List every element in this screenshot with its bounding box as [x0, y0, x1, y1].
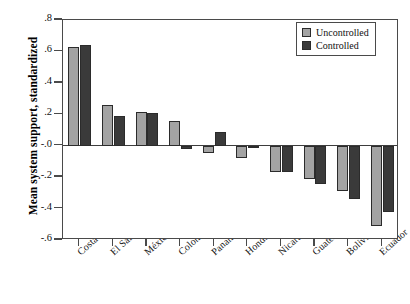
- bar: [102, 105, 113, 146]
- y-axis-tick-label: -.4: [24, 202, 52, 213]
- bar: [169, 121, 180, 146]
- bar: [80, 45, 91, 146]
- bar: [181, 146, 192, 149]
- legend-label: Controlled: [316, 41, 359, 51]
- bar: [337, 146, 348, 192]
- chart-figure: Mean system support, standardized .8.6.4…: [0, 0, 410, 304]
- bar: [349, 146, 360, 199]
- bar: [136, 112, 147, 146]
- y-axis-tick-label: .6: [24, 44, 52, 55]
- y-axis-tick-label: .8: [24, 13, 52, 24]
- bar: [236, 146, 247, 159]
- y-axis-tick: [54, 113, 62, 114]
- bar: [215, 132, 226, 146]
- y-axis-tick: [54, 144, 62, 145]
- bar: [147, 113, 158, 146]
- bar: [114, 116, 125, 146]
- y-axis-tick-label: -.6: [24, 233, 52, 244]
- y-axis-tick: [54, 50, 62, 51]
- y-axis-tick-label: -.2: [24, 170, 52, 181]
- legend-swatch-icon: [302, 28, 311, 37]
- y-axis-tick-label: -.0: [24, 139, 52, 150]
- y-axis-tick-label: .2: [24, 107, 52, 118]
- y-axis-tick: [54, 207, 62, 208]
- y-axis-tick: [54, 18, 62, 19]
- chart-legend: UncontrolledControlled: [296, 22, 376, 56]
- bar: [282, 146, 293, 172]
- y-axis-tick: [54, 81, 62, 82]
- bar: [270, 146, 281, 173]
- legend-item: Controlled: [302, 39, 369, 52]
- legend-item: Uncontrolled: [302, 26, 369, 39]
- y-axis-tick-label: .4: [24, 76, 52, 87]
- bar: [383, 146, 394, 212]
- y-axis-tick: [54, 175, 62, 176]
- bar: [248, 146, 259, 148]
- bar: [203, 146, 214, 153]
- legend-label: Uncontrolled: [316, 28, 369, 38]
- bar: [315, 146, 326, 185]
- legend-swatch-icon: [302, 41, 311, 50]
- y-axis-tick: [54, 238, 62, 239]
- bar: [371, 146, 382, 226]
- bar: [68, 47, 79, 146]
- bar: [304, 146, 315, 180]
